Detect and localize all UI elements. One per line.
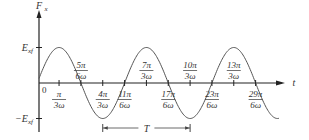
axes: Fxt0Exf−Exf [15,0,296,132]
x-tick-label-above-denominator: 3ω [184,71,196,81]
y-axis-arrow-icon [37,10,42,18]
x-tick-label-above-numerator: 5π [76,60,86,70]
x-tick-label-below-denominator: 6ω [163,100,174,110]
origin-label: 0 [42,85,47,95]
x-tick-label-below-denominator: 3ω [53,100,65,110]
x-tick-label-below-denominator: 3ω [96,100,108,110]
x-tick-label-below-numerator: 11π [118,89,131,99]
period-arrow-left-icon [103,126,108,130]
x-ticks: π3ω4π3ω11π6ω17π6ω23π6ω29π6ω5π6ω7π3ω10π3ω… [52,60,263,110]
y-axis-label: F [35,0,43,11]
y-tick-label: Exf [21,42,34,55]
x-tick-label-below-denominator: 6ω [207,100,218,110]
x-axis-arrow-icon [276,81,285,86]
x-tick-label-below-numerator: 17π [162,89,176,99]
x-tick-label-above-denominator: 3ω [140,71,152,81]
x-tick-label-below-numerator: 4π [98,89,108,99]
x-axis-label: t [293,77,296,88]
x-tick-label-above-denominator: 3ω [227,71,239,81]
period-arrow-right-icon [185,126,190,130]
x-tick-label-above-numerator: 13π [227,60,241,70]
sine-force-diagram: Fxt0Exf−Exf π3ω4π3ω11π6ω17π6ω23π6ω29π6ω5… [0,0,309,140]
x-tick-label-above-numerator: 10π [183,60,197,70]
x-tick-label-below-denominator: 6ω [250,100,261,110]
x-tick-label-below-denominator: 6ω [119,100,130,110]
period-bracket: T [103,123,190,134]
period-label: T [144,123,151,134]
x-tick-label-above-denominator: 6ω [75,71,86,81]
x-tick-label-below-numerator: 29π [249,89,263,99]
y-axis-label-subscript: x [44,5,49,13]
x-tick-label-below-numerator: π [57,89,62,99]
x-tick-label-below-numerator: 23π [205,89,219,99]
x-tick-label-above-numerator: 7π [142,60,152,70]
y-tick-label: −Exf [15,113,34,126]
